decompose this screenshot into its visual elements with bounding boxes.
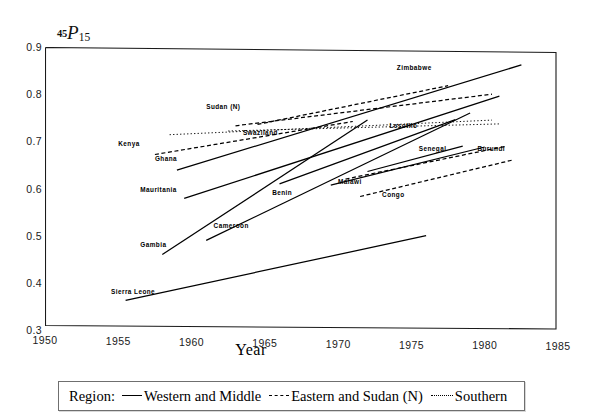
legend-entry: Eastern and Sudan (N) [269,388,423,405]
x-axis-label-text: Year [235,341,266,358]
legend-swatch-dashed [269,395,289,396]
legend-title: Region: [69,388,115,405]
series-label-gambia: Gambia [140,241,166,248]
series-label-cameroon: Cameroon [214,222,249,229]
legend-swatch-dotted [431,395,453,396]
plot-frame [46,48,557,330]
legend-entry: Southern [431,388,507,405]
series-label-lesotho: Lesotho [389,122,417,129]
legend-entry-label: Southern [455,388,507,405]
series-label-swaziland: Swaziland [243,129,278,136]
series-line-sierra-leone [126,236,427,301]
series-label-senegal: Senegal [419,145,447,152]
series-label-congo: Congo [382,191,404,198]
legend-entry-label: Western and Middle [144,388,261,405]
chart-figure: 45P15 0.90.80.70.60.50.40.3 195019551960… [0,0,590,418]
series-label-zimbabwe: Zimbabwe [397,64,432,71]
series-line-zimbabwe [258,86,449,125]
series-line-ghana [177,65,522,170]
series-label-sudan-n-: Sudan (N) [206,103,240,110]
legend-inner: Region: Western and MiddleEastern and Su… [59,382,524,410]
series-line-swaziland [170,120,492,135]
plot-area: KenyaSudan (N)SwazilandZimbabweLesothoGh… [45,47,558,330]
legend-swatch-solid [122,395,142,396]
legend-entry: Western and Middle [122,388,261,405]
series-label-ghana: Ghana [155,155,177,162]
series-label-burundi: Burundi [477,145,505,152]
series-label-benin: Benin [272,189,292,196]
series-label-sierra-leone: Sierra Leone [111,288,155,295]
legend-entry-label: Eastern and Sudan (N) [291,388,423,405]
series-line-gambia [162,120,367,254]
series-label-mauritania: Mauritania [140,186,176,193]
series-line-senegal [368,146,463,171]
x-axis-label: Year [0,341,590,359]
series-label-malawi: Malawi [338,178,362,185]
series-label-kenya: Kenya [118,140,139,147]
legend: Region: Western and MiddleEastern and Su… [58,381,525,411]
